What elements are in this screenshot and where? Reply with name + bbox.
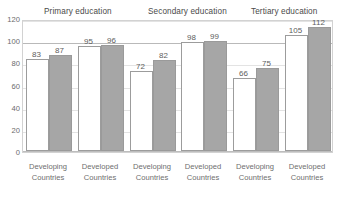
value-label: 72 xyxy=(136,63,145,71)
x-axis-baseline xyxy=(23,151,332,152)
y-axis-tick-120: 120 xyxy=(0,16,20,24)
x-axis-category-label-line: Developing xyxy=(236,162,274,173)
x-axis-category-label-line: Developed xyxy=(185,162,221,173)
value-label: 75 xyxy=(262,60,271,68)
group-title-tertiary-education: Tertiary education xyxy=(251,7,317,16)
x-axis-category-label-line: Developing xyxy=(29,162,67,173)
grouped-bar-chart: Primary education Secondary education Te… xyxy=(0,0,348,199)
bar-developing-95 xyxy=(78,46,101,151)
x-axis-category-label-line: Countries xyxy=(133,173,171,184)
x-axis-category-label-line: Countries xyxy=(185,173,221,184)
x-axis-category-label-line: Developed xyxy=(82,162,118,173)
value-label: 83 xyxy=(32,51,41,59)
bar-developing-98 xyxy=(181,42,204,151)
y-axis-tick-100: 100 xyxy=(0,38,20,46)
bar-developed-99 xyxy=(204,41,227,151)
bar-developing-105 xyxy=(285,35,308,151)
x-axis-category-label-line: Countries xyxy=(289,173,325,184)
y-axis-tick-60: 60 xyxy=(0,83,20,91)
bar-developing-72 xyxy=(130,71,153,151)
value-label: 99 xyxy=(210,33,219,41)
bar-developed-82 xyxy=(153,60,176,151)
value-label: 96 xyxy=(107,37,116,45)
x-axis-category-label: DevelopingCountries xyxy=(133,162,171,183)
value-label: 98 xyxy=(187,34,196,42)
x-axis-category-label-line: Developed xyxy=(289,162,325,173)
x-axis-category-label-line: Countries xyxy=(82,173,118,184)
y-axis-tick-0: 0 xyxy=(0,149,20,157)
y-axis: 020406080100120 xyxy=(0,20,20,153)
plot-area xyxy=(22,20,333,153)
value-label: 105 xyxy=(289,27,302,35)
x-axis-category-label: DevelopingCountries xyxy=(29,162,67,183)
y-axis-tick-40: 40 xyxy=(0,105,20,113)
bar-developed-96 xyxy=(101,45,124,151)
value-label: 82 xyxy=(159,52,168,60)
group-title-secondary-education: Secondary education xyxy=(148,7,227,16)
x-axis-category-label: DevelopingCountries xyxy=(236,162,274,183)
bar-developing-83 xyxy=(26,59,49,151)
group-title-primary-education: Primary education xyxy=(44,7,112,16)
bar-developed-75 xyxy=(256,68,279,151)
value-label: 87 xyxy=(55,47,64,55)
value-label: 66 xyxy=(239,70,248,78)
bar-developed-87 xyxy=(49,55,72,151)
x-axis-category-label: DevelopedCountries xyxy=(185,162,221,183)
x-axis-category-label-line: Countries xyxy=(29,173,67,184)
y-axis-tick-80: 80 xyxy=(0,61,20,69)
value-label: 95 xyxy=(84,38,93,46)
value-label: 112 xyxy=(312,19,325,27)
x-axis-category-label: DevelopedCountries xyxy=(82,162,118,183)
x-axis-category-label-line: Developing xyxy=(133,162,171,173)
x-axis-category-label-line: Countries xyxy=(236,173,274,184)
gridline-120 xyxy=(23,21,332,22)
x-axis-category-label: DevelopedCountries xyxy=(289,162,325,183)
bar-developed-112 xyxy=(308,27,331,151)
bar-developing-66 xyxy=(233,78,256,151)
y-axis-tick-20: 20 xyxy=(0,127,20,135)
